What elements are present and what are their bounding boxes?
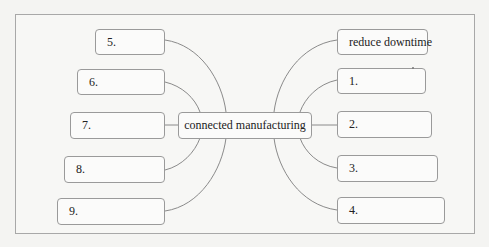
link-8 [165,138,200,170]
node-7-label: 7. [82,118,91,133]
center-node[interactable]: connected manufacturing [178,112,312,139]
link-6 [165,82,200,112]
link-3 [300,138,337,168]
node-8-label: 8. [76,162,85,177]
node-9-label: 9. [69,204,78,219]
node-5[interactable]: 5. [95,29,165,55]
node-5-label: 5. [107,35,116,50]
node-7[interactable]: 7. [70,112,165,139]
node-1-label: 1. [349,74,358,89]
node-6[interactable]: 6. [77,69,165,95]
link-5 [165,40,226,112]
center-node-label: connected manufacturing [184,118,306,133]
node-reduce-downtime[interactable]: reduce downtime [337,29,428,55]
node-reduce-downtime-label: reduce downtime [349,35,432,50]
node-6-label: 6. [89,75,98,90]
link-9 [165,138,226,211]
node-1[interactable]: 1. [337,68,426,94]
node-3-label: 3. [349,161,358,176]
node-4-label: 4. [349,203,358,218]
node-2-label: 2. [349,117,358,132]
link-1 [300,80,337,112]
node-8[interactable]: 8. [64,156,165,183]
node-2[interactable]: 2. [337,111,432,138]
node-3[interactable]: 3. [337,155,438,182]
node-4[interactable]: 4. [337,197,445,224]
stray-dot [412,67,414,69]
node-9[interactable]: 9. [57,198,165,225]
